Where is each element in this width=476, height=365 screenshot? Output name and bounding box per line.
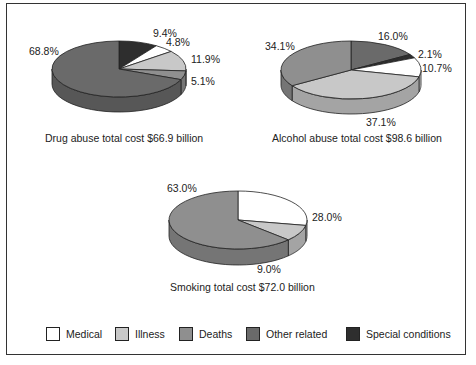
drug-label-other: 68.8% <box>29 45 59 57</box>
alcohol-label-special: 2.1% <box>418 48 442 60</box>
legend-item-illness: Illness <box>115 327 165 341</box>
legend-item-other-related: Other related <box>246 327 327 341</box>
alcohol-label-medical: 10.7% <box>422 62 452 74</box>
legend-item-deaths: Deaths <box>179 327 232 341</box>
smoking-label-illness: 9.0% <box>257 263 281 275</box>
legend-label: Other related <box>266 328 327 340</box>
alcohol-label-deaths: 34.1% <box>265 40 295 52</box>
alcohol-caption: Alcohol abuse total cost $98.6 billion <box>272 132 442 144</box>
legend-label: Deaths <box>199 328 232 340</box>
drug-label-medical: 4.8% <box>166 36 190 48</box>
legend: Medical Illness Deaths Other related Spe… <box>0 327 476 343</box>
pie-alcohol-abuse <box>281 41 421 114</box>
drug-caption: Drug abuse total cost $66.9 billion <box>45 132 203 144</box>
swatch-illness-icon <box>115 327 129 341</box>
legend-label: Medical <box>66 328 102 340</box>
pie-drug-abuse <box>52 41 186 112</box>
legend-item-special-conditions: Special conditions <box>346 327 451 341</box>
swatch-other-related-icon <box>246 327 260 341</box>
swatch-deaths-icon <box>179 327 193 341</box>
legend-label: Special conditions <box>366 328 451 340</box>
legend-label: Illness <box>135 328 165 340</box>
swatch-special-conditions-icon <box>346 327 360 341</box>
smoking-label-deaths: 63.0% <box>167 182 197 194</box>
alcohol-label-other: 16.0% <box>378 30 408 42</box>
drug-label-deaths: 5.1% <box>191 75 215 87</box>
smoking-label-medical: 28.0% <box>312 211 342 223</box>
legend-item-medical: Medical <box>46 327 102 341</box>
alcohol-label-illness: 37.1% <box>366 116 396 128</box>
pie-charts: 9.4% 4.8% 11.9% 5.1% 68.8% 16.0% 2.1% 10… <box>0 0 476 365</box>
swatch-medical-icon <box>46 327 60 341</box>
pie-smoking <box>169 191 307 265</box>
smoking-caption: Smoking total cost $72.0 billion <box>170 281 315 293</box>
drug-label-illness: 11.9% <box>191 53 220 65</box>
